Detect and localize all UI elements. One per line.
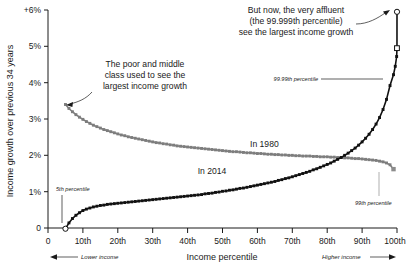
data-point <box>99 204 102 207</box>
data-point <box>245 186 248 189</box>
data-point <box>305 171 308 174</box>
data-point <box>78 211 81 214</box>
data-point <box>326 155 329 158</box>
data-point <box>85 120 88 123</box>
data-point <box>123 201 126 204</box>
affluent-annotation-line-3: see the largest income growth <box>239 27 354 37</box>
data-point <box>347 156 350 159</box>
series-layer <box>64 10 398 230</box>
ninetyninth-percentile-label: 99th percentile <box>355 200 392 206</box>
data-point <box>277 179 280 182</box>
data-point <box>322 155 325 158</box>
data-point <box>85 208 88 211</box>
y-axis: 0 1% 2% 3% 4% 5% +6% <box>24 5 48 233</box>
data-point <box>109 130 112 133</box>
data-point <box>389 84 392 87</box>
y-axis-title-group: Income growth over previous 34 years <box>5 44 15 197</box>
x-axis-title: Income percentile <box>186 252 257 262</box>
marker-5th-percentile <box>63 226 68 231</box>
data-point <box>308 170 311 173</box>
data-point <box>148 199 151 202</box>
data-point <box>71 110 74 113</box>
y-tick-label: 0 <box>36 223 41 233</box>
data-point <box>382 108 385 111</box>
data-point <box>305 155 308 158</box>
data-point <box>340 156 343 159</box>
data-point <box>130 200 133 203</box>
data-point <box>74 214 77 217</box>
data-point <box>78 116 81 119</box>
poor-annotation-line-2: class used to see the <box>105 70 186 80</box>
data-point <box>347 152 350 155</box>
data-point <box>183 195 186 198</box>
data-point <box>329 156 332 159</box>
x-tick-label: 20th <box>110 236 127 246</box>
data-point <box>291 154 294 157</box>
data-point <box>204 147 207 150</box>
data-point <box>141 138 144 141</box>
data-point <box>214 191 217 194</box>
data-point <box>162 197 165 200</box>
data-point <box>294 154 297 157</box>
y-tick-label: 1% <box>29 187 42 197</box>
data-point <box>134 137 137 140</box>
fifth-percentile-label: 5th percentile <box>56 186 90 192</box>
data-point <box>116 132 119 135</box>
data-point <box>155 198 158 201</box>
x-tick-group: 0 10th 20th 30th 40th 50th 60th 70th 80t… <box>46 228 406 246</box>
data-point <box>228 189 231 192</box>
income-growth-chart: Income growth over previous 34 years 0 1… <box>0 0 411 273</box>
data-point <box>81 118 84 121</box>
data-point <box>151 198 154 201</box>
data-point <box>385 162 388 165</box>
series-line <box>65 12 397 229</box>
data-point <box>95 125 98 128</box>
data-point <box>329 162 332 165</box>
data-point <box>364 158 367 161</box>
data-point <box>225 189 228 192</box>
y-tick-label: 2% <box>29 150 42 160</box>
data-point <box>343 154 346 157</box>
data-point <box>389 163 392 166</box>
marker-99.99th-percentile <box>395 46 400 51</box>
data-point <box>113 131 116 134</box>
data-point <box>102 204 105 207</box>
data-point <box>319 166 322 169</box>
data-point <box>259 183 262 186</box>
data-point <box>298 154 301 157</box>
data-point <box>312 168 315 171</box>
data-point <box>308 155 311 158</box>
data-point <box>200 147 203 150</box>
data-point <box>357 157 360 160</box>
x-tick-label: 70th <box>284 236 301 246</box>
data-point <box>88 207 91 210</box>
x-tick-label: 100th <box>384 236 406 246</box>
data-point <box>123 134 126 137</box>
data-point <box>273 180 276 183</box>
data-point <box>239 151 242 154</box>
data-point <box>232 188 235 191</box>
x-tick-label: 80th <box>319 236 336 246</box>
data-point <box>71 217 74 220</box>
data-point <box>193 146 196 149</box>
data-point <box>382 160 385 163</box>
data-point <box>371 159 374 162</box>
data-point <box>197 193 200 196</box>
data-point <box>301 155 304 158</box>
data-point <box>280 178 283 181</box>
higher-income-arrow-icon <box>389 254 396 259</box>
affluent-annotation-arrow-icon <box>383 10 390 16</box>
data-point <box>232 150 235 153</box>
data-point <box>315 167 318 170</box>
data-point <box>225 150 228 153</box>
data-point <box>357 144 360 147</box>
y-tick-label: +6% <box>24 5 42 15</box>
data-point <box>263 182 266 185</box>
data-point <box>252 152 255 155</box>
affluent-annotation-line-1: But now, the very affluent <box>248 5 345 15</box>
data-point <box>158 142 161 145</box>
data-point <box>134 200 137 203</box>
data-point <box>92 124 95 127</box>
data-point <box>287 176 290 179</box>
data-point <box>218 149 221 152</box>
